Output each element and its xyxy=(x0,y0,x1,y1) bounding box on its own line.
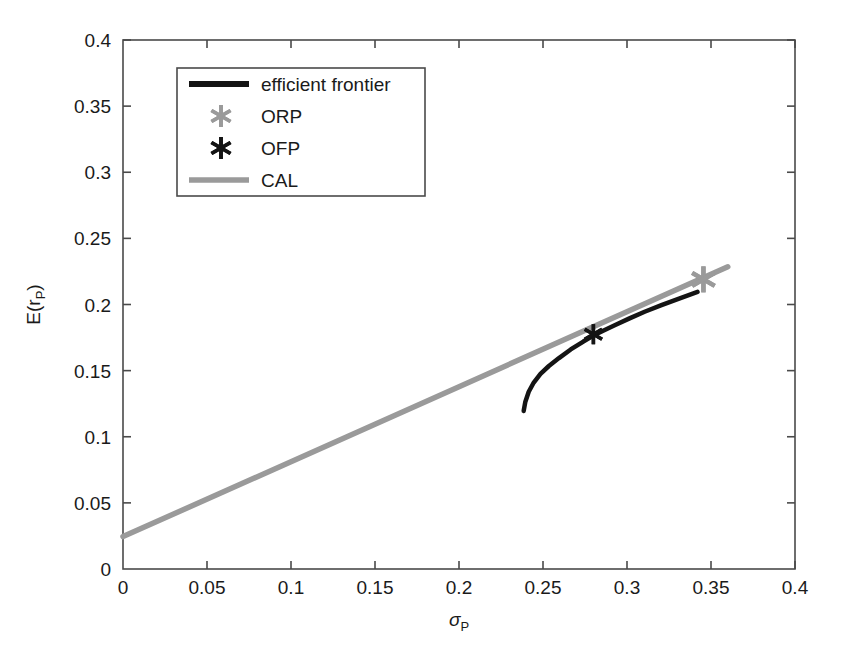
legend-label: efficient frontier xyxy=(261,74,391,95)
x-tick-label: 0.05 xyxy=(189,577,226,598)
y-tick-label: 0.1 xyxy=(85,427,111,448)
y-tick-label: 0.35 xyxy=(74,96,111,117)
x-tick-label: 0.4 xyxy=(782,577,809,598)
y-tick-label: 0.2 xyxy=(85,295,111,316)
y-tick-label: 0.3 xyxy=(85,162,111,183)
x-tick-label: 0.1 xyxy=(278,577,304,598)
chart-legend: efficient frontierORPOFPCAL xyxy=(177,68,425,196)
x-tick-label: 0.15 xyxy=(357,577,394,598)
x-axis-title: σP xyxy=(449,609,469,634)
y-tick-label: 0.25 xyxy=(74,228,111,249)
x-tick-label: 0.35 xyxy=(693,577,730,598)
legend-label: OFP xyxy=(261,138,300,159)
y-tick-label: 0.15 xyxy=(74,361,111,382)
efficient-frontier-chart: efficient frontierORPOFPCAL 00.050.10.15… xyxy=(0,0,849,668)
y-tick-label: 0.4 xyxy=(85,30,112,51)
y-tick-label: 0 xyxy=(100,559,111,580)
legend-label: CAL xyxy=(261,170,298,191)
y-axis-title: E(rP) xyxy=(23,284,48,324)
data-series xyxy=(123,266,728,536)
x-tick-label: 0.3 xyxy=(614,577,640,598)
x-tick-label: 0.25 xyxy=(525,577,562,598)
chart-page: efficient frontierORPOFPCAL 00.050.10.15… xyxy=(0,0,849,668)
legend-label: ORP xyxy=(261,106,302,127)
x-tick-label: 0.2 xyxy=(446,577,472,598)
y-tick-label: 0.05 xyxy=(74,493,111,514)
series-cal xyxy=(123,267,728,537)
x-tick-label: 0 xyxy=(118,577,129,598)
series-efficient-frontier xyxy=(524,292,698,411)
